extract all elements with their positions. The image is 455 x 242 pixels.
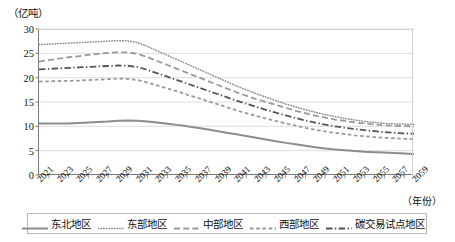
y-tick-label: 0 bbox=[12, 170, 34, 181]
y-tick-label: 5 bbox=[12, 145, 34, 156]
series-line-1 bbox=[39, 120, 414, 154]
y-tick-label: 15 bbox=[12, 97, 34, 108]
legend-item-4[interactable]: 西部地区 bbox=[250, 216, 326, 231]
legend-item-1[interactable]: 东北地区 bbox=[22, 216, 98, 231]
plot-area bbox=[38, 29, 413, 175]
y-axis-tick-labels: 051015202530 bbox=[8, 0, 34, 242]
y-tick-label: 25 bbox=[12, 48, 34, 59]
series-line-5 bbox=[39, 66, 414, 134]
legend-item-2[interactable]: 东部地区 bbox=[98, 216, 174, 231]
legend-label: 西部地区 bbox=[279, 216, 319, 231]
legend-label: 中部地区 bbox=[203, 216, 243, 231]
legend-label: 东北地区 bbox=[51, 216, 91, 231]
legend-swatch-dashed bbox=[174, 219, 200, 228]
legend-label: 碳交易试点地区 bbox=[355, 216, 425, 231]
legend-swatch-smalldash bbox=[250, 219, 276, 228]
legend-swatch-solid bbox=[22, 219, 48, 228]
y-tick-label: 10 bbox=[12, 121, 34, 132]
legend-swatch-dotted bbox=[98, 219, 124, 228]
legend-swatch-dashdot bbox=[326, 219, 352, 228]
legend-item-5[interactable]: 碳交易试点地区 bbox=[326, 216, 432, 231]
chart-figure: （亿吨） 051015202530 2021202320252027202920… bbox=[0, 0, 455, 242]
x-axis-label: （年份） bbox=[402, 193, 442, 208]
y-tick-label: 30 bbox=[12, 24, 34, 35]
legend-label: 东部地区 bbox=[127, 216, 167, 231]
legend-item-3[interactable]: 中部地区 bbox=[174, 216, 250, 231]
y-tick-label: 20 bbox=[12, 72, 34, 83]
chart-legend: 东北地区东部地区中部地区西部地区碳交易试点地区 bbox=[27, 213, 427, 234]
x-axis-tick-labels: 2021202320252027202920312033203520372039… bbox=[38, 175, 413, 215]
chart-svg bbox=[39, 29, 414, 181]
series-line-3 bbox=[39, 52, 414, 126]
